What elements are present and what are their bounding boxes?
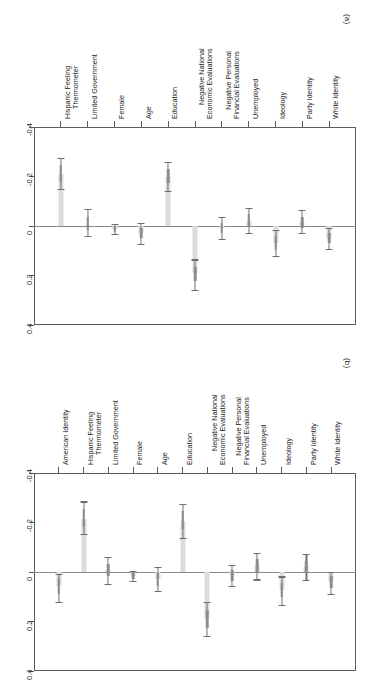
whisker-cap-upper	[253, 553, 260, 554]
estimate-marker	[200, 473, 214, 671]
whisker-cap-upper	[179, 504, 186, 505]
whisker-cap-lower	[84, 236, 91, 237]
category-axis-label: Unemployed	[252, 79, 260, 119]
whisker-cap-upper	[272, 230, 279, 231]
whisker-cap-lower	[245, 233, 252, 234]
inner-interval	[140, 228, 143, 238]
whisker-cap-lower	[179, 538, 186, 539]
value-axis-tick-label: 0	[25, 577, 34, 581]
estimate-marker	[299, 473, 313, 671]
whisker-cap-upper	[218, 217, 225, 218]
estimate-marker	[324, 473, 338, 671]
whisker-cap-lower	[154, 591, 161, 592]
estimate-marker	[101, 473, 115, 671]
value-axis-tick	[29, 572, 34, 573]
inner-interval	[157, 573, 160, 586]
whisker-cap-upper	[105, 557, 112, 558]
category-axis-label: Negative NationalEconomic Evaluations	[198, 48, 213, 119]
value-axis-tick-label: -0.4	[25, 469, 34, 482]
category-axis-label: Female	[118, 95, 126, 119]
whisker-cap-lower	[278, 605, 285, 606]
whisker-cap-lower	[138, 244, 145, 245]
whisker-cap-lower	[303, 580, 310, 581]
whisker-cap-lower	[130, 581, 137, 582]
whisker-cap-lower	[218, 239, 225, 240]
category-axis-label: Negative PersonalFinancial Evaluations	[225, 51, 240, 119]
inner-interval	[328, 233, 331, 243]
category-axis-label: American Identity	[62, 409, 70, 465]
estimate-marker	[54, 127, 68, 325]
whisker-cap-lower	[105, 584, 112, 585]
estimate-marker	[77, 473, 91, 671]
value-axis-tick-label: -0.4	[25, 123, 34, 136]
chart-panel-a: (a)-0.4-0.200.20.4Hispanic FeelingThermo…	[0, 0, 372, 346]
category-axis-label: Hispanic FeelingThermometer	[87, 412, 102, 465]
category-axis-label: Unemployed	[260, 425, 268, 465]
estimate-marker	[151, 473, 165, 671]
whisker-cap-lower	[272, 256, 279, 257]
category-axis-label: Education	[171, 87, 179, 119]
inner-interval	[330, 576, 333, 588]
inner-interval	[107, 564, 110, 576]
inner-interval	[86, 217, 89, 230]
inner-interval	[57, 579, 60, 594]
category-axis-label: Limited Government	[91, 54, 99, 119]
category-axis-label: White Identity	[334, 421, 342, 465]
inner-interval	[181, 511, 184, 529]
whisker-cap-upper	[245, 208, 252, 209]
inner-interval	[113, 226, 116, 232]
value-axis-tick-label: 0.4	[25, 324, 34, 334]
estimate-marker	[161, 127, 175, 325]
panel-label: (a)	[343, 14, 352, 24]
whisker-cap-upper	[328, 572, 335, 573]
chart-panel-b: (b)-0.4-0.200.20.4American IdentityHispa…	[0, 346, 372, 692]
estimate-marker	[176, 473, 190, 671]
category-axis-label: Ideology	[285, 438, 293, 465]
category-axis-label: Education	[186, 433, 194, 465]
category-axis-label: Negative NationalEconomic Evaluations	[211, 394, 226, 465]
whisker-cap-upper	[299, 210, 306, 211]
inner-interval	[256, 559, 259, 573]
inner-interval	[305, 561, 308, 574]
whisker-cap-lower	[111, 234, 118, 235]
category-axis-label: Age	[161, 452, 169, 465]
category-axis-label: Party Identity	[310, 423, 318, 465]
category-axis-label: Ideology	[279, 92, 287, 119]
inner-interval	[194, 267, 197, 281]
figure-root: (a)-0.4-0.200.20.4Hispanic FeelingThermo…	[0, 0, 372, 692]
whisker-cap-upper	[278, 576, 285, 577]
inner-interval	[301, 217, 304, 228]
whisker-cap-lower	[165, 191, 172, 192]
whisker-cap-upper	[192, 259, 199, 260]
estimate-marker	[188, 127, 202, 325]
estimate-marker	[134, 127, 148, 325]
whisker-cap-upper	[55, 574, 62, 575]
whisker-cap-upper	[204, 602, 211, 603]
inner-interval	[132, 572, 135, 578]
value-axis-tick-label: -0.2	[25, 173, 34, 186]
estimate-marker	[322, 127, 336, 325]
value-axis-tick-label: 0.2	[25, 620, 34, 630]
value-axis-tick-label: -0.2	[25, 519, 34, 532]
whisker-cap-lower	[55, 602, 62, 603]
whisker-cap-upper	[57, 158, 64, 159]
inner-interval	[231, 570, 234, 581]
value-axis-tick-label: 0.2	[25, 274, 34, 284]
inner-interval	[274, 236, 277, 249]
panel-label: (b)	[343, 358, 352, 368]
category-axis-label: Limited Government	[112, 400, 120, 465]
category-axis-label: Hispanic FeelingThermometer	[64, 66, 79, 119]
estimate-marker	[81, 127, 95, 325]
value-axis-tick	[29, 226, 34, 227]
whisker-cap-lower	[328, 594, 335, 595]
estimate-marker	[108, 127, 122, 325]
inner-interval	[167, 169, 170, 183]
estimate-marker	[242, 127, 256, 325]
whisker-cap-upper	[80, 501, 87, 502]
whisker-cap-lower	[299, 233, 306, 234]
whisker-cap-lower	[80, 534, 87, 535]
category-axis-label: Female	[136, 441, 144, 465]
value-axis-tick-label: 0.4	[25, 670, 34, 680]
inner-interval	[60, 165, 63, 182]
whisker-cap-upper	[326, 228, 333, 229]
